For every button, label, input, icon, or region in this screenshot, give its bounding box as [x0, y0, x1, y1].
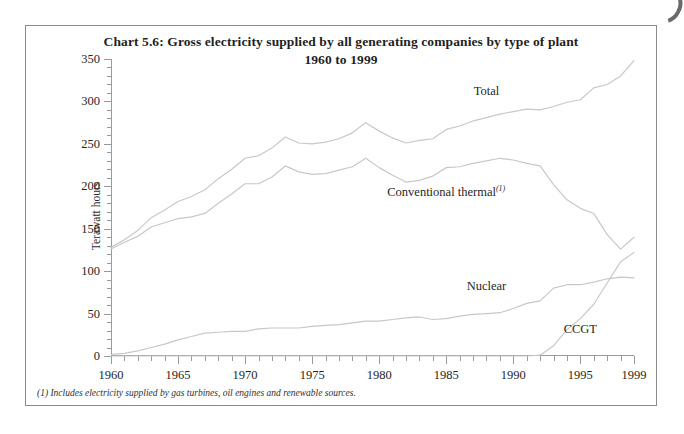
x-axis-label: 1985: [434, 368, 459, 383]
series-line-conventional-thermal: [111, 158, 634, 249]
x-axis-label: 1995: [568, 368, 593, 383]
x-tick-minor: [486, 356, 487, 361]
x-tick-minor: [339, 356, 340, 361]
y-axis-label: 50: [88, 306, 101, 321]
x-tick-minor: [259, 356, 260, 361]
chart-title-line-1: Chart 5.6: Gross electricity supplied by…: [26, 33, 656, 51]
x-tick-minor: [272, 356, 273, 361]
x-tick-major: [111, 356, 112, 364]
series-annotation-conventional-thermal: Conventional thermal(1): [387, 184, 505, 200]
x-tick-minor: [419, 356, 420, 361]
x-tick-minor: [567, 356, 568, 361]
x-tick-minor: [151, 356, 152, 361]
chart-figure-frame: Chart 5.6: Gross electricity supplied by…: [25, 25, 657, 406]
x-tick-minor: [554, 356, 555, 361]
x-tick-minor: [607, 356, 608, 361]
x-tick-minor: [285, 356, 286, 361]
x-tick-minor: [473, 356, 474, 361]
series-annotation-nuclear: Nuclear: [467, 279, 507, 294]
x-tick-minor: [527, 356, 528, 361]
x-tick-minor: [433, 356, 434, 361]
x-axis-label: 1970: [233, 368, 258, 383]
x-tick-minor: [165, 356, 166, 361]
x-axis-label: 1960: [99, 368, 124, 383]
x-tick-major: [245, 356, 246, 364]
x-tick-minor: [460, 356, 461, 361]
y-axis-label: 300: [81, 94, 100, 109]
chart-footnote: (1) Includes electricity supplied by gas…: [37, 388, 356, 398]
x-tick-major: [513, 356, 514, 364]
x-tick-minor: [594, 356, 595, 361]
y-axis-label: 150: [81, 221, 100, 236]
x-tick-major: [446, 356, 447, 364]
y-axis-label: 0: [94, 349, 100, 364]
x-tick-major: [634, 356, 635, 364]
x-tick-minor: [191, 356, 192, 361]
x-tick-major: [580, 356, 581, 364]
series-lines: [111, 59, 634, 356]
y-axis-label: 250: [81, 136, 100, 151]
y-tick-major: [104, 356, 111, 357]
y-tick-major: [104, 229, 111, 230]
x-axis-label: 1980: [367, 368, 392, 383]
x-tick-minor: [232, 356, 233, 361]
x-tick-minor: [299, 356, 300, 361]
x-tick-minor: [205, 356, 206, 361]
x-tick-minor: [138, 356, 139, 361]
x-tick-major: [379, 356, 380, 364]
x-tick-minor: [326, 356, 327, 361]
annotation-text: Conventional thermal: [387, 185, 496, 199]
y-axis-label: 200: [81, 179, 100, 194]
x-tick-minor: [393, 356, 394, 361]
x-axis-label: 1975: [300, 368, 325, 383]
y-axis-label: 350: [81, 52, 100, 67]
series-annotation-total: Total: [474, 84, 500, 99]
x-tick-minor: [500, 356, 501, 361]
x-tick-major: [312, 356, 313, 364]
series-line-total: [111, 61, 634, 248]
x-axis-label: 1999: [622, 368, 647, 383]
x-tick-minor: [406, 356, 407, 361]
x-axis-label: 1965: [166, 368, 191, 383]
x-tick-minor: [352, 356, 353, 361]
x-tick-minor: [124, 356, 125, 361]
plot-area: 050100150200250300350 196019651970197519…: [111, 59, 634, 356]
y-axis-label: 100: [81, 264, 100, 279]
series-line-ccgt: [111, 252, 634, 356]
footnote-marker: (1): [496, 184, 505, 193]
y-tick-major: [104, 186, 111, 187]
x-tick-minor: [621, 356, 622, 361]
x-tick-minor: [366, 356, 367, 361]
y-tick-major: [104, 101, 111, 102]
x-tick-major: [178, 356, 179, 364]
y-tick-major: [104, 59, 111, 60]
y-tick-major: [104, 314, 111, 315]
x-tick-minor: [540, 356, 541, 361]
y-tick-major: [104, 271, 111, 272]
series-annotation-ccgt: CCGT: [564, 321, 597, 336]
x-axis-label: 1990: [501, 368, 526, 383]
x-tick-minor: [218, 356, 219, 361]
y-tick-major: [104, 144, 111, 145]
